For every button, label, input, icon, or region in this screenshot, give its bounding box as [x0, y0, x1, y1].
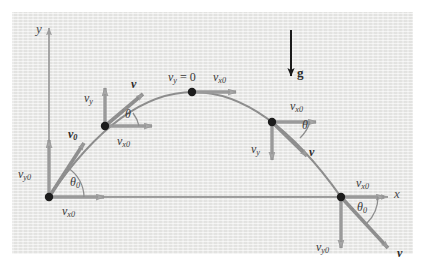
- theta0-label-landing: θ0: [357, 201, 367, 215]
- apex-point-dot: [188, 88, 196, 96]
- vx0-label-descending: vx0: [290, 100, 303, 114]
- vy0-label-landing: vy0: [316, 241, 329, 255]
- v0-vector-label: v0: [68, 128, 77, 142]
- theta-label-descending: θ: [302, 119, 308, 131]
- vx0-label-landing: vx0: [356, 177, 369, 191]
- vx0-label-apex: vx0: [213, 71, 226, 85]
- landing-point-dot: [337, 193, 345, 201]
- theta0-angle-arc: [367, 197, 378, 223]
- v-vector-label-descending: v: [309, 146, 314, 158]
- projectile-motion-figure: y x g v0 vy0 vx0 θ0 v vy vx0 θ vy = 0 vx…: [0, 0, 433, 271]
- descending-point-dot: [268, 118, 276, 126]
- launch-point-dot: [45, 193, 53, 201]
- theta0-label-launch: θ0: [70, 176, 80, 190]
- axis-group: [49, 28, 388, 197]
- figure-vector-layer: [0, 0, 433, 271]
- vy-label-descending: vy: [251, 143, 260, 157]
- ascending-point-dot: [101, 122, 109, 130]
- vy0-label: vy0: [18, 168, 31, 182]
- vy-zero-label: vy = 0: [168, 71, 196, 85]
- v-vector-label-landing: v: [397, 247, 402, 259]
- vy-label-ascending: vy: [84, 92, 93, 106]
- v-vector-label-ascending: v: [131, 78, 136, 90]
- theta-label-ascending: θ: [125, 108, 131, 120]
- y-axis-label: y: [36, 22, 42, 35]
- gravity-label: g: [297, 66, 304, 79]
- x-axis-label: x: [394, 187, 400, 200]
- theta-angle-arc: [133, 113, 139, 126]
- vx0-label-launch: vx0: [62, 205, 75, 219]
- vx0-label-ascending: vx0: [117, 135, 130, 149]
- apex-vectors: [188, 88, 236, 96]
